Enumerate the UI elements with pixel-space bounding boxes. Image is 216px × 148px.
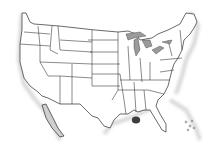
us-map [0, 0, 216, 148]
gulf-highlight-marker [132, 117, 140, 124]
baja-california [42, 104, 64, 137]
